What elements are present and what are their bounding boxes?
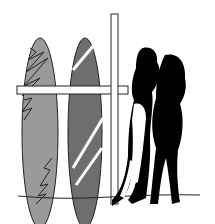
rack-post [111,14,118,204]
surf-scene [0,0,215,224]
couple-silhouette [112,48,186,206]
surfboard-left [22,38,58,224]
illustration [0,0,215,224]
surfboard-right [68,38,103,224]
